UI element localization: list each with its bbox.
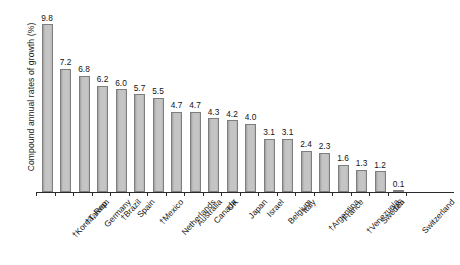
bar-slot: 0.1 xyxy=(390,14,409,192)
y-axis-title: Compound annual rates of growth (%) xyxy=(26,4,36,190)
bar[interactable] xyxy=(134,94,145,192)
bar-slot: 9.8 xyxy=(38,14,57,192)
x-axis-tick-labels: †Korea, Rep.†TaiwanGermany†BrazilSpain†M… xyxy=(38,197,458,263)
bar[interactable] xyxy=(282,139,293,192)
x-axis-tick xyxy=(92,192,93,196)
bar-slot: 5.7 xyxy=(131,14,150,192)
x-axis-tick xyxy=(36,192,37,196)
x-axis-tick xyxy=(332,192,333,196)
x-axis-tick xyxy=(73,192,74,196)
bar[interactable] xyxy=(60,69,71,192)
x-axis-tick xyxy=(406,192,407,196)
x-axis-tick xyxy=(314,192,315,196)
bar-value-label: 9.8 xyxy=(35,13,59,23)
bar-value-label: 6.8 xyxy=(72,64,96,74)
bar-slot: 1.2 xyxy=(371,14,390,192)
plot-area: 9.87.26.86.26.05.75.54.74.74.34.24.03.13… xyxy=(38,14,452,192)
x-axis-tick xyxy=(129,192,130,196)
bar-value-label: 0.1 xyxy=(387,179,411,189)
x-axis-tick xyxy=(203,192,204,196)
bar-slot: 6.2 xyxy=(94,14,113,192)
x-axis-tick xyxy=(351,192,352,196)
bar[interactable] xyxy=(208,118,219,192)
x-axis-label: Israel xyxy=(264,197,285,219)
x-axis-tick xyxy=(240,192,241,196)
bar[interactable] xyxy=(42,24,53,192)
bar[interactable] xyxy=(227,120,238,192)
x-axis-tick xyxy=(184,192,185,196)
bar[interactable] xyxy=(116,89,127,192)
growth-rates-bar-chart: Compound annual rates of growth (%) 9.87… xyxy=(0,0,460,265)
bar-slot: 2.3 xyxy=(316,14,335,192)
x-axis-line xyxy=(36,192,454,193)
bar-value-label: 4.0 xyxy=(239,112,263,122)
x-axis-tick xyxy=(369,192,370,196)
x-axis-tick xyxy=(258,192,259,196)
x-axis-tick xyxy=(295,192,296,196)
bar-slot: 3.1 xyxy=(260,14,279,192)
bar-slot: 7.2 xyxy=(57,14,76,192)
bar-slot: 4.7 xyxy=(186,14,205,192)
bar-value-label: 5.5 xyxy=(146,86,170,96)
x-axis-tick xyxy=(147,192,148,196)
bar[interactable] xyxy=(264,139,275,192)
bar[interactable] xyxy=(338,165,349,192)
bar[interactable] xyxy=(245,124,256,192)
bar[interactable] xyxy=(171,112,182,192)
bar-value-label: 1.2 xyxy=(368,160,392,170)
x-axis-label: Switzerland xyxy=(419,197,456,235)
bar-slot: 6.8 xyxy=(75,14,94,192)
x-axis-tick xyxy=(221,192,222,196)
x-axis-label: †Mexico xyxy=(156,197,185,227)
bar[interactable] xyxy=(301,151,312,192)
bar-slot: 2.4 xyxy=(297,14,316,192)
bar-slot: 6.0 xyxy=(112,14,131,192)
x-axis-tick xyxy=(166,192,167,196)
bar-slot: 4.0 xyxy=(242,14,261,192)
bar[interactable] xyxy=(153,98,164,192)
bar-value-label: 2.3 xyxy=(313,141,337,151)
bar-value-label: 3.1 xyxy=(276,127,300,137)
x-axis-tick xyxy=(277,192,278,196)
x-axis-tick xyxy=(110,192,111,196)
bar-slot: 4.2 xyxy=(223,14,242,192)
bar-slot: 3.1 xyxy=(279,14,298,192)
bar[interactable] xyxy=(190,112,201,192)
bar[interactable] xyxy=(97,86,108,192)
bar[interactable] xyxy=(79,76,90,192)
bar[interactable] xyxy=(356,170,367,192)
bar[interactable] xyxy=(319,153,330,192)
bar[interactable] xyxy=(375,171,386,192)
bar-slot: 4.3 xyxy=(205,14,224,192)
x-axis-tick xyxy=(55,192,56,196)
x-axis-tick xyxy=(388,192,389,196)
